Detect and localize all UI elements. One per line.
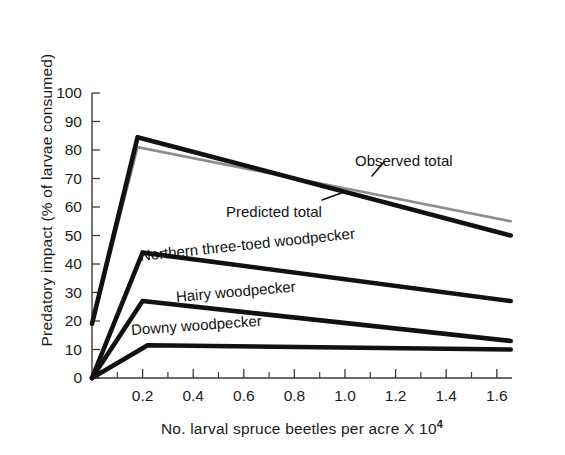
series-line: [92, 345, 511, 378]
series-annotation-label: Predicted total: [226, 203, 322, 220]
y-tick-label: 40: [48, 256, 82, 272]
x-axis-exponent: 4: [437, 418, 443, 430]
x-tick-label: 1.2: [376, 388, 416, 404]
x-tick-label: 0.8: [274, 388, 314, 404]
y-tick-label: 70: [48, 171, 82, 187]
y-tick-label: 50: [48, 228, 82, 244]
plot-area: [0, 0, 565, 455]
x-tick-label: 0.2: [123, 388, 163, 404]
y-tick-label: 100: [48, 85, 82, 101]
x-tick-label: 1.0: [325, 388, 365, 404]
y-tick-label: 80: [48, 142, 82, 158]
series-line: [92, 301, 511, 378]
annotation-leader-line: [322, 192, 344, 200]
y-tick-label: 30: [48, 285, 82, 301]
y-tick-label: 0: [48, 370, 82, 386]
y-tick-label: 60: [48, 199, 82, 215]
series-annotation-label: Observed total: [355, 152, 453, 169]
x-axis-title: No. larval spruce beetles per acre X 104: [92, 418, 512, 438]
x-tick-label: 1.6: [477, 388, 517, 404]
y-tick-label: 20: [48, 313, 82, 329]
x-axis-title-text: No. larval spruce beetles per acre X 10: [161, 420, 437, 437]
chart-figure: Predatory impact (% of larvae consumed) …: [0, 0, 565, 455]
series-line: [92, 253, 511, 378]
y-tick-label: 90: [48, 114, 82, 130]
x-tick-label: 1.4: [426, 388, 466, 404]
x-tick-label: 0.4: [173, 388, 213, 404]
y-tick-label: 10: [48, 342, 82, 358]
x-tick-label: 0.6: [224, 388, 264, 404]
